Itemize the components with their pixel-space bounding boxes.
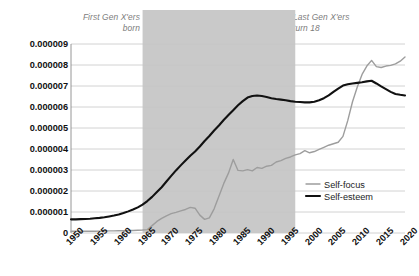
x-tick-label: 1960 <box>112 226 134 248</box>
x-tick-label: 2020 <box>398 226 419 248</box>
x-tick-label: 2015 <box>374 226 396 248</box>
x-tick-label: 1965 <box>136 226 158 248</box>
x-tick-label: 1970 <box>159 226 181 248</box>
x-tick-label: 2000 <box>303 226 325 248</box>
x-tick-label: 1980 <box>207 226 229 248</box>
x-tick-label: 1990 <box>255 226 277 248</box>
x-tick-label: 1985 <box>231 226 253 248</box>
x-tick-label: 2005 <box>326 226 348 248</box>
legend-label-self-esteem: Self-esteem <box>324 192 373 202</box>
x-tick-label: 1975 <box>183 226 205 248</box>
legend-label-self-focus: Self-focus <box>324 180 365 190</box>
x-axis-tick-labels: 1950195519601965197019751980198519901995… <box>0 0 419 276</box>
x-tick-label: 1955 <box>88 226 110 248</box>
x-tick-label: 1950 <box>64 226 86 248</box>
chart-container: First Gen X'ers born Last Gen X'ers turn… <box>0 0 419 276</box>
x-tick-label: 2010 <box>350 226 372 248</box>
x-tick-label: 1995 <box>279 226 301 248</box>
